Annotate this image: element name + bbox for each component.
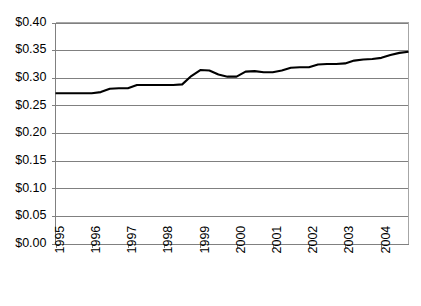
y-tick-label-3: $0.15 bbox=[15, 153, 46, 167]
x-tick-label-0: 1995 bbox=[53, 226, 67, 254]
x-tick-label-1: 1996 bbox=[89, 226, 103, 254]
chart-background bbox=[0, 0, 421, 306]
y-axis-labels: $0.00$0.05$0.10$0.15$0.20$0.25$0.30$0.35… bbox=[15, 15, 46, 250]
x-tick-label-5: 2000 bbox=[234, 226, 248, 254]
x-tick-label-2: 1997 bbox=[125, 226, 139, 254]
x-tick-label-8: 2003 bbox=[342, 226, 356, 254]
y-tick-label-0: $0.00 bbox=[15, 236, 46, 250]
x-tick-label-7: 2002 bbox=[306, 226, 320, 254]
x-tick-label-9: 2004 bbox=[379, 226, 393, 254]
y-tick-label-4: $0.20 bbox=[15, 125, 46, 139]
chart-canvas: $0.00$0.05$0.10$0.15$0.20$0.25$0.30$0.35… bbox=[0, 0, 421, 306]
x-tick-label-6: 2001 bbox=[270, 226, 284, 254]
y-tick-label-6: $0.30 bbox=[15, 70, 46, 84]
y-tick-label-2: $0.10 bbox=[15, 181, 46, 195]
y-tick-label-7: $0.35 bbox=[15, 42, 46, 56]
y-tick-label-5: $0.25 bbox=[15, 98, 46, 112]
x-tick-label-3: 1998 bbox=[161, 226, 175, 254]
y-tick-label-8: $0.40 bbox=[15, 15, 46, 29]
line-chart: $0.00$0.05$0.10$0.15$0.20$0.25$0.30$0.35… bbox=[0, 0, 421, 306]
x-tick-label-4: 1999 bbox=[198, 226, 212, 254]
y-tick-label-1: $0.05 bbox=[15, 208, 46, 222]
